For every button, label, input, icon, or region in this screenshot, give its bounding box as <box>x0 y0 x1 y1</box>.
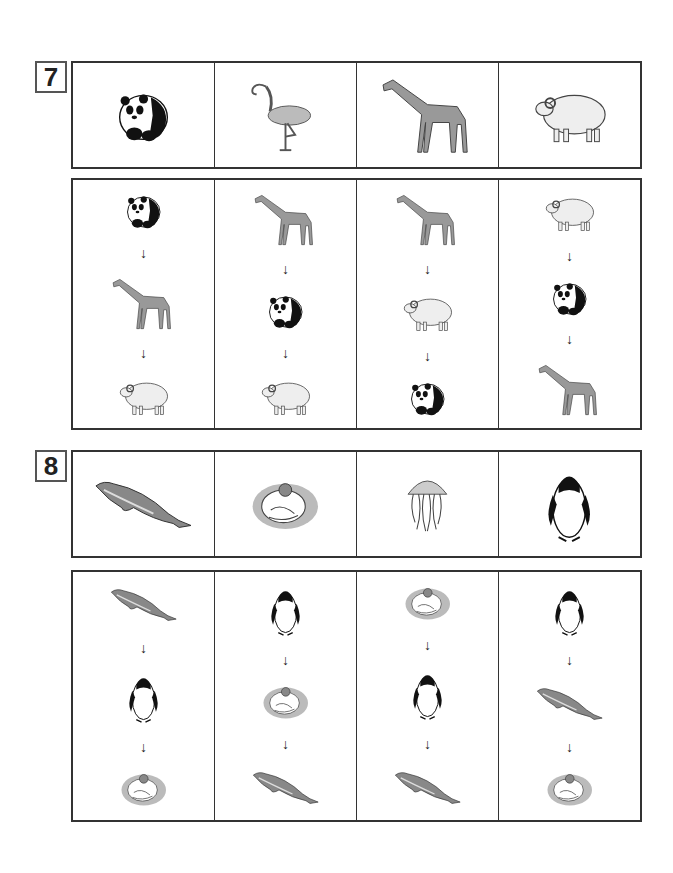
dolphin-image <box>110 584 178 625</box>
down-arrow-icon: ↓ <box>282 653 289 667</box>
dolphin-image <box>394 767 462 808</box>
sequence-option-4[interactable]: ↓↓ <box>499 572 640 820</box>
panda-image <box>116 88 171 143</box>
giraffe-image <box>535 362 604 416</box>
penguin-image <box>411 668 444 721</box>
sequence-option-1[interactable]: ↓↓ <box>73 180 215 428</box>
option-4[interactable] <box>499 63 640 167</box>
option-1[interactable] <box>73 452 215 556</box>
jellyfish-image <box>401 472 454 536</box>
penguin-image <box>127 671 160 724</box>
q8-options <box>71 450 642 558</box>
q7-sequences: ↓↓↓↓↓↓↓↓ <box>71 178 642 430</box>
down-arrow-icon: ↓ <box>140 246 147 260</box>
sequence-option-1[interactable]: ↓↓ <box>73 572 215 820</box>
option-4[interactable] <box>499 452 640 556</box>
down-arrow-icon: ↓ <box>140 641 147 655</box>
giraffe-image <box>109 276 178 330</box>
flamingo-image <box>247 77 324 154</box>
down-arrow-icon: ↓ <box>566 332 573 346</box>
option-2[interactable] <box>215 452 357 556</box>
panda-image <box>551 279 589 317</box>
dolphin-image <box>94 474 193 533</box>
down-arrow-icon: ↓ <box>424 737 431 751</box>
giraffe-image <box>393 192 462 246</box>
q8-sequences: ↓↓↓↓↓↓↓↓ <box>71 570 642 822</box>
down-arrow-icon: ↓ <box>566 653 573 667</box>
down-arrow-icon: ↓ <box>424 638 431 652</box>
sheep-image <box>401 292 454 333</box>
sheep-image <box>531 85 608 144</box>
giraffe-image <box>377 75 478 154</box>
down-arrow-icon: ↓ <box>566 249 573 263</box>
sequence-option-2[interactable]: ↓↓ <box>215 572 357 820</box>
sheep-image <box>259 376 312 417</box>
sheep-image <box>543 192 596 233</box>
question-number-7: 7 <box>35 61 67 93</box>
panda-image <box>267 292 305 330</box>
sheep-image <box>117 376 170 417</box>
sequence-option-2[interactable]: ↓↓ <box>215 180 357 428</box>
dolphin-image <box>536 683 604 724</box>
down-arrow-icon: ↓ <box>566 740 573 754</box>
down-arrow-icon: ↓ <box>282 346 289 360</box>
sea-otter-image <box>249 477 322 532</box>
option-3[interactable] <box>357 452 499 556</box>
option-2[interactable] <box>215 63 357 167</box>
sea-otter-image <box>119 770 169 808</box>
down-arrow-icon: ↓ <box>282 262 289 276</box>
down-arrow-icon: ↓ <box>140 346 147 360</box>
down-arrow-icon: ↓ <box>282 737 289 751</box>
sea-otter-image <box>403 584 453 622</box>
q7-options <box>71 61 642 169</box>
penguin-image <box>545 466 593 543</box>
panda-image <box>409 379 447 417</box>
dolphin-image <box>252 767 320 808</box>
sequence-option-4[interactable]: ↓↓ <box>499 180 640 428</box>
down-arrow-icon: ↓ <box>140 740 147 754</box>
sequence-option-3[interactable]: ↓↓ <box>357 572 499 820</box>
option-1[interactable] <box>73 63 215 167</box>
penguin-image <box>269 584 302 637</box>
panda-image <box>125 192 163 230</box>
down-arrow-icon: ↓ <box>424 262 431 276</box>
giraffe-image <box>251 192 320 246</box>
question-number-8: 8 <box>35 450 67 482</box>
sea-otter-image <box>261 683 311 721</box>
sequence-option-3[interactable]: ↓↓ <box>357 180 499 428</box>
sea-otter-image <box>545 770 595 808</box>
option-3[interactable] <box>357 63 499 167</box>
penguin-image <box>553 584 586 637</box>
down-arrow-icon: ↓ <box>424 349 431 363</box>
